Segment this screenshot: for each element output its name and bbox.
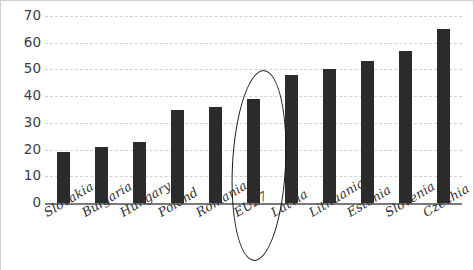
y-axis-tick-label: 60 bbox=[7, 36, 41, 50]
bar-latvia bbox=[285, 75, 298, 203]
bar-slovenia bbox=[399, 51, 412, 203]
y-axis-tick-label: 50 bbox=[7, 63, 41, 77]
y-axis-tick-label: 20 bbox=[7, 143, 41, 157]
bar-eu27 bbox=[247, 99, 260, 203]
y-axis-tick-label: 30 bbox=[7, 116, 41, 130]
gridline bbox=[45, 43, 462, 44]
bar-lithuania bbox=[323, 69, 336, 203]
plot-area bbox=[45, 16, 462, 203]
y-axis-tick-label: 0 bbox=[7, 196, 41, 210]
y-axis-tick-label: 40 bbox=[7, 89, 41, 103]
chart-page: 706050403020100 SlovakiaBulgariaHungaryP… bbox=[0, 0, 474, 270]
gridline bbox=[45, 16, 462, 17]
bar-czechia bbox=[437, 29, 450, 203]
bar-romania bbox=[209, 107, 222, 203]
y-axis-tick-label: 70 bbox=[7, 9, 41, 23]
y-axis: 706050403020100 bbox=[0, 16, 41, 203]
y-axis-tick-label: 10 bbox=[7, 170, 41, 184]
